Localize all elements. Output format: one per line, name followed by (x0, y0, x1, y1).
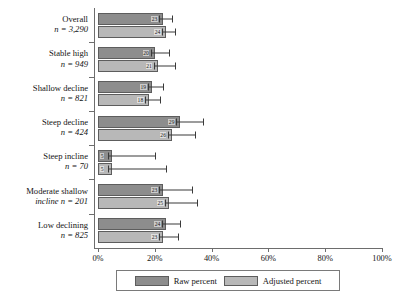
error-bar-cap (175, 62, 176, 69)
bar-value-label: 23 (151, 187, 158, 193)
legend-swatch (224, 276, 258, 286)
bar-group: 2926 (98, 116, 382, 141)
y-axis-tick (89, 111, 94, 112)
bar-row: 23 (98, 184, 382, 196)
category-label: Shallow declinen = 821 (0, 83, 88, 103)
error-bar (159, 237, 177, 238)
error-bar-cap (108, 165, 109, 172)
error-bar-cap (159, 234, 160, 241)
bar-chart: Overalln = 3,290Stable highn = 949Shallo… (0, 0, 411, 296)
y-axis-tick (89, 77, 94, 78)
category-name: Moderate shallow (26, 186, 88, 196)
error-bar-cap (151, 49, 152, 56)
bar-row: 19 (98, 81, 382, 93)
error-bar-cap (155, 152, 156, 159)
x-axis-tick-label: 40% (204, 254, 219, 263)
error-bar-cap (165, 200, 166, 207)
bar-value-label: 20 (143, 50, 150, 56)
legend-item[interactable]: Adjusted percent (224, 276, 321, 286)
bar-value-label: 24 (154, 221, 161, 227)
bar-value-label: 19 (140, 84, 147, 90)
category-label: Steep declinen = 424 (0, 117, 88, 137)
error-bar (108, 155, 155, 156)
bar-value-label: 26 (160, 132, 167, 138)
x-axis-tick (268, 248, 269, 252)
error-bar-cap (172, 15, 173, 22)
x-axis-tick-label: 60% (261, 254, 276, 263)
category-label: Steep inclinen = 70 (0, 151, 88, 171)
error-bar (108, 168, 166, 169)
x-axis-tick-label: 20% (147, 254, 162, 263)
y-axis-tick (89, 42, 94, 43)
bar-value-label: 24 (154, 29, 161, 35)
error-bar (148, 87, 163, 88)
error-bar-cap (175, 28, 176, 35)
error-bar (159, 18, 172, 19)
error-bar-cap (162, 28, 163, 35)
error-bar-cap (145, 97, 146, 104)
bar-group: 2325 (98, 184, 382, 209)
bar-value-label: 25 (157, 200, 164, 206)
x-axis-tick-label: 0% (92, 254, 103, 263)
category-name: Overall (0, 14, 88, 24)
error-bar-cap (178, 234, 179, 241)
category-count: incline n = 201 (0, 196, 88, 206)
legend-label: Raw percent (174, 276, 217, 286)
x-axis-tick-label: 80% (318, 254, 333, 263)
error-bar-cap (163, 84, 164, 91)
error-bar-cap (148, 84, 149, 91)
error-bar-cap (192, 187, 193, 194)
error-bar-cap (169, 49, 170, 56)
bar-row: 24 (98, 26, 382, 38)
bar-group: 2324 (98, 13, 382, 38)
error-bar (151, 52, 169, 53)
bar-row: 24 (98, 218, 382, 230)
x-axis-tick (212, 248, 213, 252)
category-name: Shallow decline (0, 83, 88, 93)
bar-value-label: 23 (151, 234, 158, 240)
x-axis-tick (155, 248, 156, 252)
category-count: n = 825 (0, 230, 88, 240)
chart-legend: Raw percentAdjusted percent (116, 270, 340, 291)
y-axis-line (94, 8, 95, 248)
category-count: n = 949 (0, 59, 88, 69)
category-label: Stable highn = 949 (0, 48, 88, 68)
bar-group: 55 (98, 150, 382, 175)
error-bar-cap (159, 187, 160, 194)
bar-value-label: 23 (151, 16, 158, 22)
error-bar-cap (160, 97, 161, 104)
bar-row: 29 (98, 116, 382, 128)
x-axis-tick-label: 100% (372, 254, 392, 263)
y-axis-tick (89, 214, 94, 215)
category-name: Stable high (0, 48, 88, 58)
bar-value-label: 21 (146, 63, 153, 69)
bar-row: 5 (98, 150, 382, 162)
legend-item[interactable]: Raw percent (135, 276, 217, 286)
error-bar-cap (159, 15, 160, 22)
category-label: Moderate shallowincline n = 201 (0, 186, 88, 206)
category-axis-labels: Overalln = 3,290Stable highn = 949Shallo… (0, 8, 88, 248)
category-name: Steep decline (0, 117, 88, 127)
error-bar-cap (168, 131, 169, 138)
plot-area: 23242021191829265523252423 (98, 8, 382, 248)
error-bar (176, 121, 203, 122)
error-bar-cap (197, 200, 198, 207)
bar-value-label: 5 (100, 166, 104, 172)
bar-row: 23 (98, 231, 382, 243)
bar-row: 5 (98, 163, 382, 175)
bar-group: 2423 (98, 218, 382, 243)
y-axis-tick (89, 145, 94, 146)
bar-row: 21 (98, 60, 382, 72)
category-label: Low decliningn = 825 (0, 220, 88, 240)
error-bar (159, 190, 191, 191)
legend-swatch (135, 276, 169, 286)
error-bar-cap (180, 221, 181, 228)
error-bar (162, 31, 175, 32)
bar-row: 23 (98, 13, 382, 25)
bar-row: 20 (98, 47, 382, 59)
bar-group: 1918 (98, 81, 382, 106)
error-bar (168, 134, 195, 135)
category-label: Overalln = 3,290 (0, 14, 88, 34)
category-count: n = 821 (0, 93, 88, 103)
error-bar-cap (166, 165, 167, 172)
